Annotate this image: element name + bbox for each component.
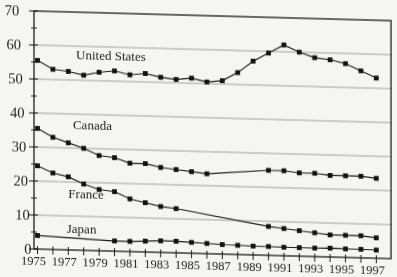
y-tick-label: 30 [12,138,26,154]
x-tick-label: 1977 [52,254,77,269]
data-point-marker [328,173,333,178]
data-point-marker [359,233,364,238]
y-tick-label: 40 [10,104,24,120]
series-united-states: United States [35,36,379,89]
data-point-marker [35,126,40,131]
data-point-marker [128,239,133,244]
data-point-marker [312,171,317,176]
data-point-marker [97,70,102,75]
data-point-marker [297,228,302,233]
scanned-chart-page: 7060504030201001975197719791981198319851… [0,0,397,277]
data-point-marker [174,239,179,244]
data-point-marker [328,246,333,251]
data-point-marker [35,233,40,238]
data-point-marker [112,69,117,74]
data-point-marker [81,73,86,78]
gridline [34,147,391,157]
data-point-marker [205,171,210,176]
data-point-marker [158,238,163,243]
x-tick-label: 1997 [360,263,385,277]
x-tick-label: 1981 [113,256,138,271]
y-tick-label: 20 [13,172,27,188]
data-point-marker [66,140,71,145]
data-point-marker [343,61,348,66]
data-point-marker [220,78,225,83]
data-point-marker [374,248,379,253]
data-point-marker [143,161,148,166]
y-tick-label: 10 [15,206,29,222]
data-point-marker [51,171,56,176]
data-point-marker [297,245,302,250]
series-japan: Japan [35,220,379,252]
data-point-marker [174,167,179,172]
data-point-marker [312,55,317,60]
data-point-marker [112,189,117,194]
x-tick-label: 1989 [237,259,262,274]
data-point-marker [282,42,287,47]
x-tick-label: 1995 [329,262,354,277]
data-point-marker [297,50,302,55]
series-label-france: France [68,186,104,202]
x-tick-label: 1979 [83,255,108,270]
data-point-marker [81,146,86,151]
data-point-marker [51,135,56,140]
x-tick-label: 1993 [298,261,323,276]
gridline [34,79,391,89]
data-point-marker [312,230,317,235]
data-point-marker [312,246,317,251]
data-point-marker [282,226,287,231]
data-point-marker [189,240,194,245]
y-tick-label: 70 [5,2,19,18]
data-point-marker [359,247,364,252]
data-point-marker [128,72,133,77]
y-tick-label: 60 [6,36,20,52]
data-point-marker [158,75,163,80]
data-point-marker [343,173,348,178]
data-point-marker [35,163,40,168]
series-label-united-states: United States [76,47,146,64]
data-point-marker [128,196,133,201]
data-point-marker [251,59,256,64]
data-point-marker [158,204,163,209]
data-point-marker [297,170,302,175]
data-point-marker [97,153,102,158]
data-point-marker [220,242,225,247]
data-point-marker [112,239,117,244]
y-tick-label: 50 [8,70,22,86]
data-point-marker [374,235,379,240]
data-point-marker [328,57,333,62]
data-point-marker [266,224,271,229]
data-point-marker [235,243,240,248]
data-point-marker [66,174,71,179]
data-point-marker [282,168,287,173]
line-chart: 7060504030201001975197719791981198319851… [0,0,397,277]
data-point-marker [282,245,287,250]
data-point-marker [374,76,379,81]
x-tick-label: 1987 [206,259,231,274]
data-point-marker [51,67,56,72]
y-axis: 706050403020100 [5,2,38,257]
data-point-marker [359,174,364,179]
series-line [38,128,377,178]
data-point-marker [189,76,194,81]
data-point-marker [143,200,148,205]
data-point-marker [128,161,133,166]
data-point-marker [251,244,256,249]
data-point-marker [35,58,40,63]
x-tick-label: 1985 [175,258,200,273]
data-point-marker [158,165,163,170]
data-point-marker [266,244,271,249]
x-tick-label: 1975 [21,254,46,269]
x-tick-label: 1991 [267,260,292,275]
data-point-marker [343,246,348,251]
data-point-marker [143,71,148,76]
data-point-marker [189,169,194,174]
data-point-marker [359,68,364,73]
data-point-marker [205,241,210,246]
series-label-japan: Japan [67,221,97,237]
data-point-marker [66,69,71,74]
data-point-marker [266,51,271,56]
data-point-marker [174,77,179,82]
data-point-marker [343,233,348,238]
series-label-canada: Canada [73,117,112,133]
